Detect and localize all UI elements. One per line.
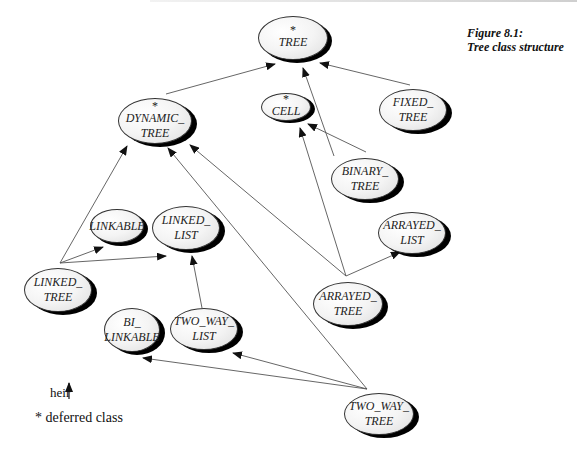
node-label: LINKED_ LIST [162, 213, 211, 243]
figure-caption: Figure 8.1: Tree class structure [467, 26, 564, 54]
node-label: LINKED_ TREE [34, 275, 83, 305]
edge-dynamic-tree-to-tree [166, 64, 275, 94]
node-linked-tree[interactable]: LINKED_ TREE [24, 268, 96, 314]
node-two-way-list[interactable]: TWO_WAY_ LIST [170, 308, 242, 352]
node-arrayed-list[interactable]: ARRAYED_ LIST [378, 212, 450, 256]
deferred-star-icon: * [290, 26, 296, 35]
node-label: LINKABLE [89, 219, 144, 234]
node-dynamic-tree[interactable]: * DYNAMIC_ TREE [118, 98, 196, 146]
node-two-way-tree[interactable]: TWO_WAY_ TREE [344, 393, 418, 437]
node-label: BINARY_ TREE [342, 164, 388, 194]
node-label: FIXED_ TREE [393, 95, 434, 125]
legend-heir-label: heir [50, 385, 70, 401]
deferred-star-icon: * [283, 95, 289, 104]
inheritance-edges [0, 0, 577, 449]
node-linkable[interactable]: LINKABLE [90, 209, 146, 245]
figure-title: Tree class structure [467, 40, 564, 54]
node-fixed-tree[interactable]: FIXED_ TREE [379, 89, 451, 133]
node-label: DYNAMIC_ TREE [126, 111, 185, 141]
edge-two-way-list-to-linked-list [192, 256, 202, 308]
node-label: TWO_WAY_ TREE [349, 399, 409, 429]
diagram-canvas: * TREE * DYNAMIC_ TREE * CELL FIXED_ TRE… [0, 0, 577, 449]
node-bi-linkable[interactable]: BI_ LINKABLE [104, 308, 164, 354]
node-tree[interactable]: * TREE [258, 16, 330, 62]
edge-arrayed-tree-to-cell [300, 128, 346, 276]
edge-two-way-tree-to-bi-linkable [143, 358, 367, 389]
node-binary-tree[interactable]: BINARY_ TREE [331, 158, 403, 202]
node-label: TREE [279, 35, 308, 50]
node-label: ARRAYED_ LIST [383, 218, 440, 248]
figure-number: Figure 8.1: [467, 26, 564, 40]
node-label: CELL [272, 104, 301, 119]
node-label: TWO_WAY_ LIST [174, 314, 234, 344]
node-arrayed-tree[interactable]: ARRAYED_ TREE [313, 282, 387, 328]
deferred-star-icon: * [152, 102, 158, 111]
edge-fixed-tree-to-tree [320, 63, 410, 85]
edge-two-way-tree-to-two-way-list [233, 353, 367, 389]
node-cell[interactable]: * CELL [261, 93, 313, 123]
node-label: BI_ LINKABLE [104, 315, 159, 345]
edge-binary-tree-to-cell [308, 124, 366, 152]
node-label: ARRAYED_ TREE [319, 289, 376, 319]
node-linked-list[interactable]: LINKED_ LIST [152, 206, 224, 252]
legend-deferred-label: * deferred class [35, 410, 123, 426]
